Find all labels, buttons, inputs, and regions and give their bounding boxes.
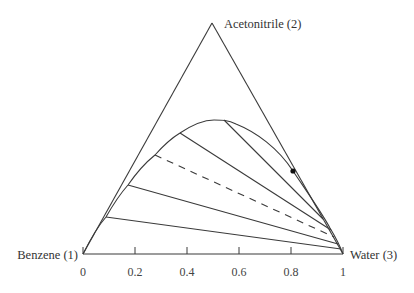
tick-label-0: 0 <box>80 265 86 279</box>
label-left-vertex: Benzene (1) <box>17 248 78 262</box>
ternary-diagram: Acetonitrile (2) Benzene (1) Water (3) 0… <box>0 0 414 293</box>
tick-label-0.4: 0.4 <box>180 265 195 279</box>
label-top-vertex: Acetonitrile (2) <box>224 17 301 31</box>
tie-line-1 <box>224 120 323 219</box>
axis-ticks <box>83 247 343 254</box>
tick-label-0.6: 0.6 <box>232 265 247 279</box>
tie-line-5 <box>106 217 341 249</box>
left-edge <box>83 23 212 254</box>
tie-lines <box>106 120 341 249</box>
plait-point-marker <box>290 168 295 173</box>
tick-label-1: 1 <box>340 265 346 279</box>
right-edge <box>212 23 343 254</box>
tick-label-0.8: 0.8 <box>284 265 299 279</box>
tie-line-3-dashed <box>155 155 334 237</box>
label-right-vertex: Water (3) <box>350 248 397 262</box>
tie-line-2 <box>180 133 331 230</box>
tick-label-0.2: 0.2 <box>128 265 143 279</box>
